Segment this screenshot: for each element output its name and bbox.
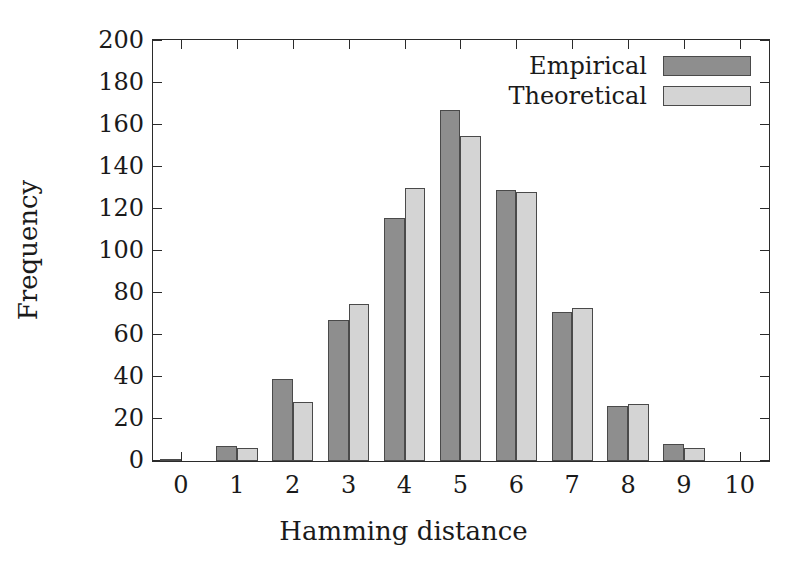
x-axis-tick-top [684,40,685,49]
bar-theoretical-3 [349,304,370,461]
y-axis-tick-label: 20 [113,406,144,430]
y-axis-tick-right [760,292,769,293]
bar-theoretical-6 [516,192,537,461]
chart-figure: Frequency 020406080100120140160180200012… [0,0,807,576]
y-axis-tick-label: 80 [113,280,144,304]
y-axis-tick-right [760,166,769,167]
bar-theoretical-2 [293,402,314,461]
y-axis-tick [153,208,162,209]
y-axis-tick-label: 100 [98,238,144,262]
bar-empirical-8 [607,406,628,461]
x-axis-tick-top [293,40,294,49]
x-axis-tick-top [460,40,461,49]
x-axis-tick-top [405,40,406,49]
bar-empirical-6 [496,190,517,461]
x-axis-tick-label: 9 [676,473,691,497]
y-axis-title-text: Frequency [13,180,43,321]
bar-theoretical-1 [237,448,258,461]
bar-theoretical-9 [684,448,705,461]
y-axis-tick-label: 40 [113,364,144,388]
x-axis-tick-label: 6 [509,473,524,497]
y-axis-tick-right [760,250,769,251]
y-axis-tick-right [760,124,769,125]
y-axis-tick [153,292,162,293]
x-axis-tick-label: 4 [397,473,412,497]
x-axis-tick-label: 5 [453,473,468,497]
x-axis-tick [181,452,182,461]
y-axis-tick [153,250,162,251]
x-axis-tick-top [516,40,517,49]
legend-item-theoretical: Theoretical [508,84,751,108]
y-axis-tick [153,82,162,83]
y-axis-tick-right [760,334,769,335]
y-axis-tick-label: 180 [98,70,144,94]
y-axis-tick-right [760,418,769,419]
y-axis-tick-label: 120 [98,196,144,220]
y-axis-tick-label: 60 [113,322,144,346]
bar-empirical-7 [552,312,573,461]
y-axis-tick-label: 0 [129,448,144,472]
bar-empirical-3 [328,320,349,461]
chart-legend: EmpiricalTheoretical [508,54,751,108]
y-axis-tick [153,334,162,335]
y-axis-title: Frequency [8,0,48,500]
legend-label: Empirical [529,54,647,78]
y-axis-tick-label: 160 [98,112,144,136]
x-axis-tick [740,452,741,461]
y-axis-tick-right [760,208,769,209]
y-axis-tick-right [760,82,769,83]
bar-empirical-2 [272,379,293,461]
x-axis-tick-label: 8 [620,473,635,497]
bar-empirical-1 [216,446,237,461]
bar-theoretical-8 [628,404,649,461]
legend-label: Theoretical [508,84,647,108]
x-axis-tick-top [740,40,741,49]
bar-empirical-5 [440,110,461,461]
x-axis-tick-label: 1 [229,473,244,497]
bar-theoretical-4 [405,188,426,461]
x-axis-tick-label: 10 [725,473,756,497]
x-axis-title: Hamming distance [0,516,807,546]
x-axis-tick-label: 7 [565,473,580,497]
y-axis-tick-label: 140 [98,154,144,178]
y-axis-tick-right [760,460,769,461]
y-axis-tick-label: 200 [98,28,144,52]
y-axis-tick-right [760,376,769,377]
y-axis-tick [153,166,162,167]
x-axis-tick-top [181,40,182,49]
x-axis-tick-label: 0 [173,473,188,497]
y-axis-tick [153,418,162,419]
x-axis-tick-label: 2 [285,473,300,497]
y-axis-tick [153,376,162,377]
x-axis-tick-top [349,40,350,49]
bar-theoretical-7 [572,308,593,461]
plot-frame: 020406080100120140160180200012345678910 … [152,39,770,462]
bar-empirical-9 [663,444,684,461]
bar-empirical-0 [160,459,181,461]
legend-swatch [663,86,751,106]
x-axis-tick-top [572,40,573,49]
x-axis-tick-label: 3 [341,473,356,497]
bar-empirical-4 [384,218,405,461]
x-axis-tick-top [237,40,238,49]
y-axis-tick [153,40,162,41]
legend-item-empirical: Empirical [508,54,751,78]
bar-theoretical-5 [460,136,481,461]
legend-swatch [663,56,751,76]
y-axis-tick-right [760,40,769,41]
y-axis-tick [153,124,162,125]
x-axis-tick-top [628,40,629,49]
